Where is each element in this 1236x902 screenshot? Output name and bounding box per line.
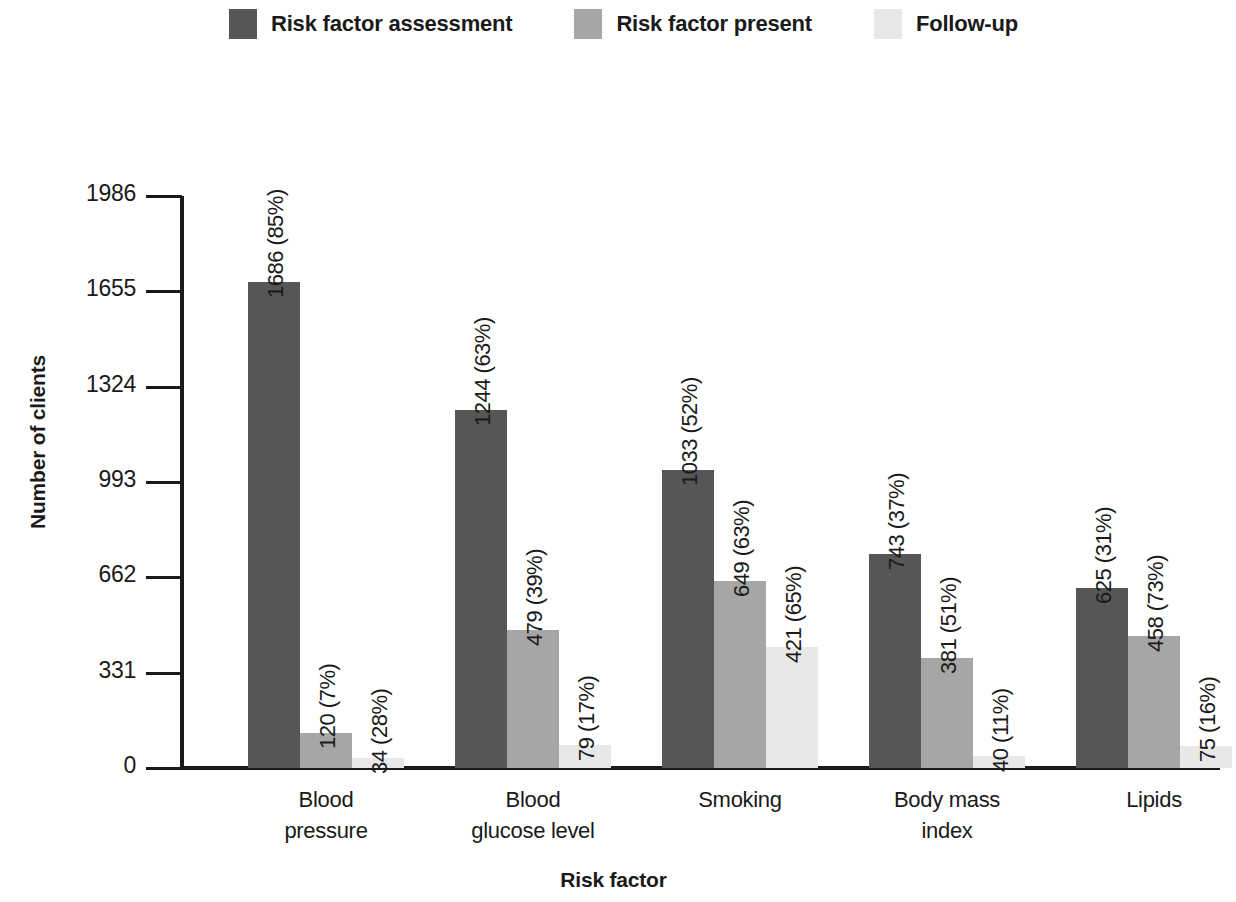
bar <box>248 282 300 768</box>
category-label-line: glucose level <box>415 815 651 846</box>
bar-value-label: 743 (37%) <box>884 473 910 570</box>
bar-value-label: 625 (31%) <box>1091 507 1117 604</box>
bar-value-label: 421 (65%) <box>781 566 807 663</box>
bar-value-label: 1244 (63%) <box>470 317 496 426</box>
bar <box>869 554 921 768</box>
y-axis-tick-label: 331 <box>16 657 136 684</box>
bar <box>662 470 714 768</box>
y-axis-tick <box>146 576 182 579</box>
y-axis-title: Number of clients <box>26 332 50 552</box>
y-axis-tick-label: 662 <box>16 561 136 588</box>
x-axis-category-label: Bloodglucose level <box>415 784 651 846</box>
x-axis-category-label: Bloodpressure <box>208 784 444 846</box>
y-axis-tick <box>146 767 182 770</box>
y-axis-tick <box>146 672 182 675</box>
y-axis-tick-label: 993 <box>16 466 136 493</box>
y-axis-tick-label: 1986 <box>16 180 136 207</box>
y-axis-tick-label: 1324 <box>16 371 136 398</box>
y-axis-tick-label: 1655 <box>16 275 136 302</box>
bar <box>1076 588 1128 768</box>
bar <box>714 581 766 768</box>
bar-value-label: 34 (28%) <box>367 689 393 774</box>
y-axis-tick <box>146 290 182 293</box>
x-axis-title: Risk factor <box>0 868 1227 892</box>
bar-value-label: 458 (73%) <box>1143 555 1169 652</box>
category-label-line: Lipids <box>1036 784 1236 815</box>
category-label-line: pressure <box>208 815 444 846</box>
bar-value-label: 120 (7%) <box>315 664 341 749</box>
bar <box>766 647 818 768</box>
y-axis-tick <box>146 481 182 484</box>
y-axis-tick <box>146 195 182 198</box>
x-axis-category-label: Smoking <box>622 784 858 815</box>
x-axis-category-label: Lipids <box>1036 784 1236 815</box>
category-label-line: index <box>829 815 1065 846</box>
bar <box>921 658 973 768</box>
bar-value-label: 79 (17%) <box>574 676 600 761</box>
bar <box>455 410 507 768</box>
y-axis-tick-label: 0 <box>16 752 136 779</box>
bar <box>507 630 559 768</box>
bar <box>1128 636 1180 768</box>
category-label-line: Smoking <box>622 784 858 815</box>
category-label-line: Blood <box>208 784 444 815</box>
bar-value-label: 75 (16%) <box>1195 677 1221 762</box>
bar-value-label: 1033 (52%) <box>677 378 703 487</box>
bar-value-label: 479 (39%) <box>522 549 548 646</box>
x-axis-category-label: Body massindex <box>829 784 1065 846</box>
y-axis-tick <box>146 386 182 389</box>
category-label-line: Body mass <box>829 784 1065 815</box>
category-label-line: Blood <box>415 784 651 815</box>
bar-value-label: 649 (63%) <box>729 500 755 597</box>
bar-value-label: 381 (51%) <box>936 577 962 674</box>
bar-value-label: 40 (11%) <box>988 689 1014 773</box>
bar-value-label: 1686 (85%) <box>263 190 289 299</box>
